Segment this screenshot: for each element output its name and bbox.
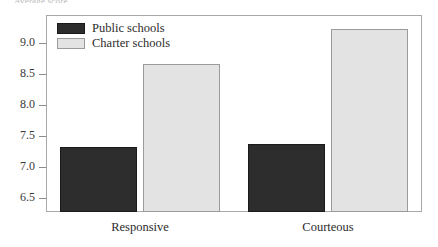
legend-item-public: Public schools [57,21,170,35]
x-axis-label-courteous: Courteous [234,219,422,235]
chart-legend: Public schoolsCharter schools [57,21,170,50]
y-axis-tick-label: 6.5 [20,190,35,205]
y-axis-tick: 8.0 [0,105,46,106]
y-axis-tick-label: 9.0 [20,35,35,50]
y-axis-tick-mark [39,105,46,106]
y-axis-tick-label: 8.0 [20,97,35,112]
y-axis-tick: 9.0 [0,43,46,44]
y-axis-tick: 7.5 [0,136,46,137]
y-axis-tick: 7.0 [0,167,46,168]
y-axis: 6.57.07.58.08.59.0 [0,0,46,247]
y-axis-tick-mark [39,198,46,199]
y-axis-tick-mark [39,43,46,44]
y-axis-tick-mark [39,74,46,75]
y-axis-tick: 6.5 [0,198,46,199]
y-axis-tick-mark [39,136,46,137]
y-axis-tick: 8.5 [0,74,46,75]
y-axis-tick-mark [39,167,46,168]
legend-label-charter: Charter schools [92,36,170,50]
x-axis-label-responsive: Responsive [46,219,234,235]
y-axis-tick-label: 7.5 [20,128,35,143]
legend-swatch-charter [57,38,85,49]
legend-swatch-public [57,23,85,34]
y-axis-tick-label: 7.0 [20,159,35,174]
legend-item-charter: Charter schools [57,36,170,50]
y-axis-tick-label: 8.5 [20,66,35,81]
legend-label-public: Public schools [92,21,165,35]
